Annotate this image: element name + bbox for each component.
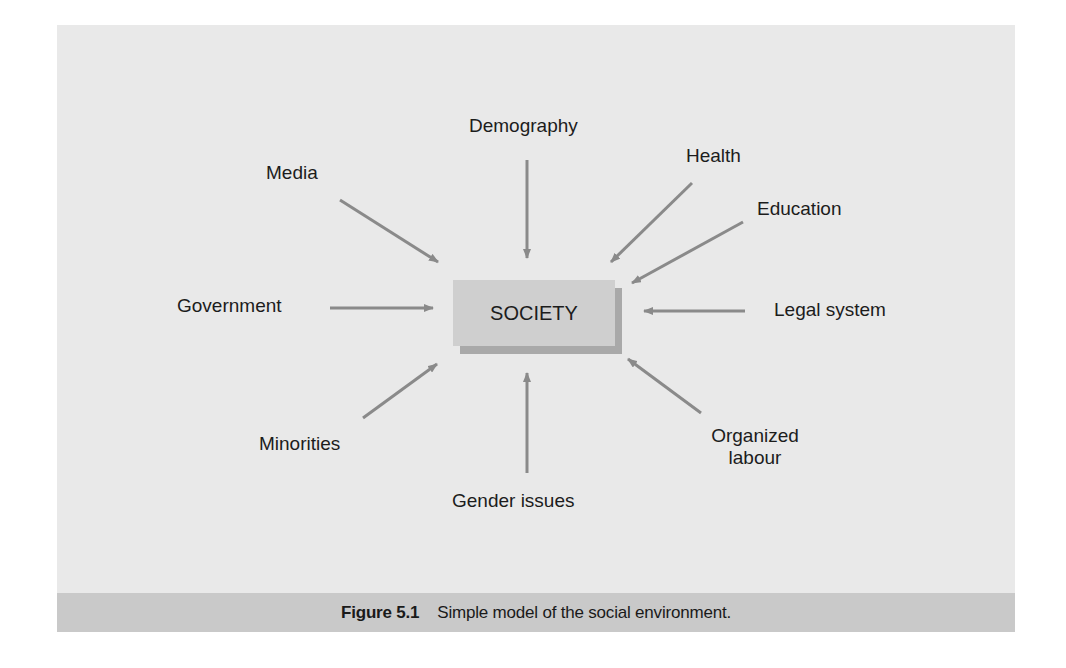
label-demography: Demography: [469, 115, 578, 137]
label-organized-labour: Organized labour: [700, 425, 810, 469]
arrow-minorities: [363, 364, 437, 418]
arrow-health: [611, 183, 692, 262]
arrow-education: [632, 222, 743, 283]
label-minorities: Minorities: [259, 433, 340, 455]
figure-number: Figure 5.1: [341, 603, 419, 623]
label-gender-issues: Gender issues: [452, 490, 575, 512]
society-label: SOCIETY: [490, 302, 578, 325]
label-government: Government: [177, 295, 282, 317]
arrow-media: [340, 200, 438, 262]
figure-caption: Figure 5.1 Simple model of the social en…: [57, 593, 1015, 632]
label-education: Education: [757, 198, 842, 220]
label-health: Health: [686, 145, 741, 167]
label-organized-labour-line2: labour: [700, 447, 810, 469]
label-organized-labour-line1: Organized: [700, 425, 810, 447]
label-media: Media: [266, 162, 318, 184]
label-legal-system: Legal system: [774, 299, 886, 321]
arrow-organized-labour: [628, 359, 701, 413]
society-node: SOCIETY: [453, 280, 615, 346]
figure-caption-text: Simple model of the social environment.: [437, 603, 731, 623]
